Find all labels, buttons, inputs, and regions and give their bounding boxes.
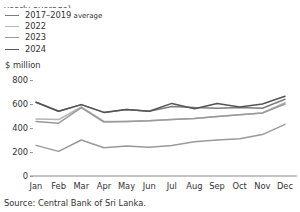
chart-figure: yearly average) 2017–2019 average 2022 2…	[0, 0, 300, 212]
series-line-2024	[36, 96, 285, 112]
y-axis-tick	[30, 80, 33, 81]
source-note: Source: Central Bank of Sri Lanka.	[4, 198, 146, 208]
y-axis-tick-label: 800	[2, 75, 28, 85]
y-axis-tick-label: 400	[2, 123, 28, 133]
y-axis-tick	[30, 128, 33, 129]
y-axis-tick	[30, 104, 33, 105]
y-axis-tick-label: 600	[2, 99, 28, 109]
y-axis-tick-label: 200	[2, 147, 28, 157]
y-axis-tick-label: 0	[2, 171, 28, 181]
series-line-2024-low	[36, 124, 285, 151]
y-axis-tick	[30, 152, 33, 153]
x-axis-tick-label: Dec	[270, 181, 300, 191]
y-axis-tick	[30, 176, 33, 177]
